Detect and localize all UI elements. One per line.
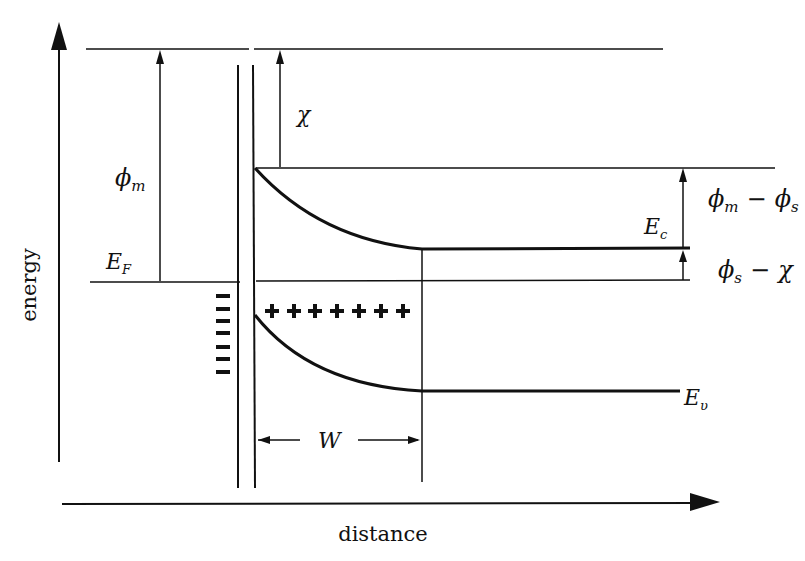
energy-axis	[51, 22, 67, 462]
phi-s-minus-chi-label: ϕs−χ	[718, 256, 794, 287]
valence-band	[255, 315, 680, 391]
x-axis-label: distance	[338, 522, 428, 546]
depletion-width-label: W	[318, 428, 343, 453]
fermi-level-label: EF	[105, 249, 132, 277]
chi-label: χ	[295, 102, 312, 127]
positive-charges	[265, 304, 410, 318]
arrowhead-icon	[679, 250, 687, 262]
distance-axis	[62, 493, 720, 511]
interface-line-semiconductor	[253, 65, 255, 488]
y-axis-label: energy	[17, 248, 41, 322]
negative-charges	[216, 294, 230, 374]
conduction-band-label: Ec	[643, 214, 668, 242]
phi-m-minus-phi-s-label: ϕm−ϕs	[708, 185, 799, 216]
axis-arrow-up-icon	[51, 22, 67, 50]
arrowhead-icon	[679, 168, 687, 182]
arrowhead-icon	[156, 50, 164, 64]
arrow-left-icon	[258, 436, 270, 444]
phi-m-label: ϕm	[115, 164, 146, 195]
fermi-level-semiconductor	[256, 280, 690, 281]
arrow-right-icon	[408, 436, 420, 444]
valence-band-label: Eυ	[683, 385, 708, 413]
conduction-band	[255, 168, 690, 249]
axis-arrow-right-icon	[690, 493, 720, 511]
band-diagram: ϕm χ EF Ec Eυ ϕm−ϕs ϕs−χ W distance ener…	[0, 0, 805, 561]
arrowhead-icon	[276, 50, 284, 64]
